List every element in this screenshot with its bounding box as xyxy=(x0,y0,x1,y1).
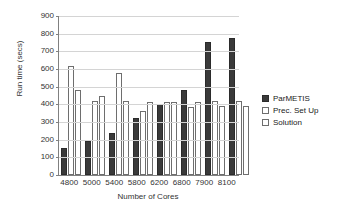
y-axis-tickmark xyxy=(56,16,59,17)
legend: ParMETISPrec. Set UpSolution xyxy=(262,92,356,128)
bar xyxy=(123,101,129,175)
legend-item: Solution xyxy=(262,116,356,128)
gridline xyxy=(59,157,239,158)
bar xyxy=(188,107,194,175)
bar xyxy=(236,101,242,175)
legend-swatch-icon xyxy=(262,107,269,114)
legend-item: Prec. Set Up xyxy=(262,104,356,116)
bar-group xyxy=(107,16,131,175)
bar-groups xyxy=(59,16,239,175)
y-axis-tick-label: 800 xyxy=(41,30,54,38)
gridline xyxy=(59,16,239,17)
x-axis-tick-label: 4800 xyxy=(58,178,81,187)
bar xyxy=(147,102,153,175)
bar-group xyxy=(131,16,155,175)
bar xyxy=(61,148,67,175)
bar xyxy=(243,106,249,175)
bar xyxy=(68,66,74,175)
bar xyxy=(75,90,81,175)
bar-group xyxy=(203,16,227,175)
bar xyxy=(92,101,98,175)
gridline xyxy=(59,34,239,35)
y-axis-tickmark xyxy=(56,157,59,158)
y-axis-tickmark xyxy=(56,140,59,141)
bar xyxy=(133,118,139,175)
bar xyxy=(164,102,170,175)
y-axis-tickmark xyxy=(56,87,59,88)
y-axis-tick-labels: 9008007006005004003002001000 xyxy=(30,12,56,176)
y-axis-tickmark xyxy=(56,51,59,52)
bar xyxy=(195,102,201,175)
bar-group xyxy=(83,16,107,175)
bar-group xyxy=(227,16,251,175)
gridline xyxy=(59,104,239,105)
y-axis-tick-label: 900 xyxy=(41,12,54,20)
gridline xyxy=(59,51,239,52)
y-axis-tickmark xyxy=(56,69,59,70)
gridline xyxy=(59,69,239,70)
x-axis-tick-label: 6800 xyxy=(171,178,194,187)
y-axis-tick-label: 700 xyxy=(41,47,54,55)
gridline xyxy=(59,140,239,141)
y-axis-tickmark xyxy=(56,122,59,123)
y-axis-tickmark xyxy=(56,34,59,35)
y-axis-tick-label: 400 xyxy=(41,100,54,108)
y-axis-tickmark xyxy=(56,104,59,105)
y-axis-tick-label: 100 xyxy=(41,153,54,161)
legend-swatch-icon xyxy=(262,95,269,102)
bar xyxy=(116,73,122,175)
gridline xyxy=(59,122,239,123)
x-axis-tick-label: 5000 xyxy=(81,178,104,187)
bar xyxy=(140,111,146,175)
y-axis-tickmark xyxy=(56,175,59,176)
y-axis-title: Run time (secs) xyxy=(15,14,24,124)
bar-group xyxy=(155,16,179,175)
bar xyxy=(181,90,187,175)
x-axis-tick-label: 5800 xyxy=(126,178,149,187)
bar-group xyxy=(179,16,203,175)
bar xyxy=(171,102,177,175)
x-axis-tick-label: 5400 xyxy=(103,178,126,187)
legend-label: ParMETIS xyxy=(273,94,310,103)
plot-area xyxy=(58,16,239,176)
x-axis-tick-labels: 48005000540058006200680079008100 xyxy=(58,178,238,187)
bar xyxy=(229,38,235,175)
bar xyxy=(99,96,105,175)
legend-swatch-icon xyxy=(262,119,269,126)
y-axis-tick-label: 500 xyxy=(41,83,54,91)
gridline xyxy=(59,87,239,88)
x-axis-tick-label: 6200 xyxy=(148,178,171,187)
bar-chart: Run time (secs) 900800700600500400300200… xyxy=(0,0,356,210)
bar-group xyxy=(59,16,83,175)
x-axis-title: Number of Cores xyxy=(58,192,238,201)
legend-label: Prec. Set Up xyxy=(273,106,318,115)
y-axis-tick-label: 0 xyxy=(50,171,54,179)
bar xyxy=(205,42,211,175)
y-axis-tick-label: 300 xyxy=(41,118,54,126)
x-axis-tick-label: 8100 xyxy=(216,178,239,187)
legend-label: Solution xyxy=(273,118,302,127)
bar xyxy=(212,101,218,175)
legend-item: ParMETIS xyxy=(262,92,356,104)
x-axis-tick-label: 7900 xyxy=(193,178,216,187)
y-axis-tick-label: 600 xyxy=(41,65,54,73)
y-axis-tick-label: 200 xyxy=(41,136,54,144)
